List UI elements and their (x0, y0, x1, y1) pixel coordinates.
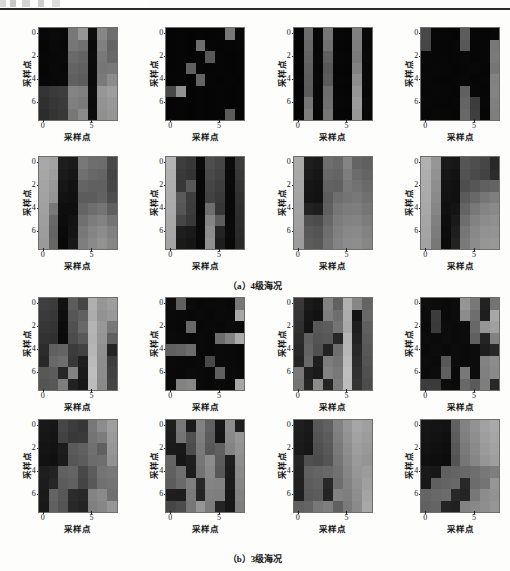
heatmap-cell (225, 333, 235, 345)
heatmap-cell (304, 74, 314, 86)
heatmap-cell (343, 455, 353, 467)
y-tick-label: 2 (159, 444, 163, 452)
heatmap-cell (333, 420, 343, 432)
y-tick-label: 6 (414, 98, 418, 106)
heatmap-cell (480, 203, 490, 215)
heatmap-cell (304, 97, 314, 109)
heatmap-cell (333, 379, 343, 391)
heatmap-cell (343, 238, 353, 250)
y-tick-label: 4 (32, 75, 36, 83)
heatmap-cell (362, 356, 372, 368)
heatmap-cell (205, 109, 215, 121)
heatmap-cell (294, 226, 304, 238)
heatmap-cell (78, 420, 88, 432)
heatmap-cell (323, 51, 333, 63)
heatmap-cell (235, 333, 245, 345)
heatmap-cell (176, 333, 186, 345)
heatmap-cell (166, 333, 176, 345)
heatmap-cell (107, 51, 117, 63)
heatmap-cell (421, 28, 431, 40)
heatmap-cell (480, 379, 490, 391)
heatmap-cell (205, 180, 215, 192)
heatmap-cell (343, 344, 353, 356)
y-tick-label: 0 (159, 299, 163, 307)
y-tick-label: 0 (159, 29, 163, 37)
heatmap-cell (490, 180, 500, 192)
heatmap-cell (352, 63, 362, 75)
heatmap-cell (176, 443, 186, 455)
heatmap-cell (451, 501, 461, 513)
heatmap-cell (97, 420, 107, 432)
heatmap-cell (333, 321, 343, 333)
heatmap-cell (205, 310, 215, 322)
y-tick-label: 6 (414, 227, 418, 235)
heatmap-cell (313, 333, 323, 345)
heatmap-cell (39, 169, 49, 181)
heatmap-cell (480, 455, 490, 467)
heatmap-cell (490, 74, 500, 86)
heatmap-cell (470, 310, 480, 322)
heatmap-cell (78, 226, 88, 238)
heatmap-cell (421, 356, 431, 368)
heatmap-cell (470, 455, 480, 467)
heatmap-cell (323, 63, 333, 75)
heatmap-cell (480, 489, 490, 501)
heatmap-cell (480, 63, 490, 75)
heatmap-cell (323, 169, 333, 181)
heatmap-cell (225, 443, 235, 455)
heatmap-cell (107, 169, 117, 181)
heatmap-cell (196, 298, 206, 310)
heatmap-cell (480, 40, 490, 52)
heatmap-cell (304, 466, 314, 478)
heatmap-cell (215, 489, 225, 501)
y-tick-label: 0 (32, 158, 36, 166)
x-tick-label: 5 (89, 122, 93, 130)
heatmap-cell (490, 310, 500, 322)
heatmap-cell (470, 203, 480, 215)
x-tick-label: 0 (41, 122, 45, 130)
heatmap-cell (304, 310, 314, 322)
heatmap-cell (196, 63, 206, 75)
heatmap-cell (58, 432, 68, 444)
plot-area: 采样点024605采样点 (394, 297, 498, 411)
heatmap-cell (39, 192, 49, 204)
heatmap-cell (225, 501, 235, 513)
heatmap-cell (97, 333, 107, 345)
y-tick-label: 6 (159, 368, 163, 376)
y-tick-label: 4 (32, 467, 36, 475)
heatmap-cell (225, 74, 235, 86)
heatmap-cell (460, 367, 470, 379)
heatmap-cell (176, 157, 186, 169)
heatmap-cell (431, 109, 441, 121)
heatmap-cell (421, 443, 431, 455)
heatmap-cell (470, 109, 480, 121)
y-tick-label: 4 (287, 75, 291, 83)
heatmap-cell (323, 97, 333, 109)
heatmap-cell (39, 455, 49, 467)
heatmap-cell (58, 63, 68, 75)
plot-area: 采样点024605采样点 (394, 156, 498, 270)
heatmap-cell (58, 169, 68, 181)
heatmap-cell (88, 238, 98, 250)
plot-area: 采样点024605采样点 (394, 27, 498, 141)
heatmap-cell (451, 215, 461, 227)
heatmap-cell (304, 51, 314, 63)
heatmap-cell (323, 86, 333, 98)
heatmap-grid (420, 419, 500, 513)
heatmap-cell (470, 333, 480, 345)
y-tick-label: 4 (32, 204, 36, 212)
heatmap-cell (225, 192, 235, 204)
heatmap-cell (88, 478, 98, 490)
heatmap-cell (39, 51, 49, 63)
heatmap-cell (304, 226, 314, 238)
heatmap-cell (215, 51, 225, 63)
heatmap-cell (421, 169, 431, 181)
heatmap-cell (215, 203, 225, 215)
y-tick-label: 2 (159, 52, 163, 60)
heatmap-cell (441, 74, 451, 86)
heatmap-cell (333, 86, 343, 98)
heatmap-cell (49, 298, 59, 310)
heatmap-cell (225, 356, 235, 368)
heatmap-cell (166, 321, 176, 333)
heatmap-cell (176, 344, 186, 356)
